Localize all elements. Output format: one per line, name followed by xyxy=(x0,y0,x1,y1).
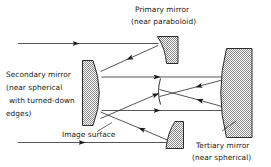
secondary-mirror-label-line3: with turned-down xyxy=(9,96,75,105)
image-surface-label: Image surface xyxy=(62,130,116,139)
secondary-mirror-label-line4: edges) xyxy=(6,109,32,118)
secondary-mirror-label-line2: (near spherical xyxy=(6,83,62,92)
tertiary-mirror-label-line2: (near spherical) xyxy=(192,153,251,162)
tertiary-mirror xyxy=(221,49,252,138)
ray-diagram-canvas: Primary mirror (near paraboloid) Seconda… xyxy=(0,0,271,167)
optical-diagram: Primary mirror (near paraboloid) Seconda… xyxy=(0,0,271,167)
tertiary-mirror-label-line1: Tertiary mirror xyxy=(195,141,250,150)
secondary-mirror-label-line1: Secondary mirror xyxy=(6,70,72,79)
primary-mirror-label-line1: Primary mirror xyxy=(135,5,190,14)
primary-mirror-label-line2: (near paraboloid) xyxy=(131,17,196,26)
